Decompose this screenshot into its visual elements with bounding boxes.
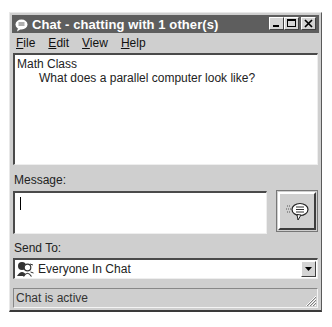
send-to-selected: Everyone In Chat [38, 262, 131, 276]
minimize-button[interactable] [269, 17, 284, 30]
menu-edit[interactable]: Edit [46, 35, 69, 51]
menu-file[interactable]: File [14, 35, 35, 51]
send-speech-bubble-icon [286, 202, 310, 222]
chat-bubble-icon [15, 18, 28, 31]
maximize-icon [285, 18, 298, 29]
chat-window: Chat - chatting with 1 other(s) File [9, 12, 322, 312]
group-people-icon [16, 261, 34, 277]
send-to-label: Send To: [14, 241, 61, 255]
status-text: Chat is active [16, 291, 88, 305]
chat-message: What does a parallel computer look like? [17, 71, 315, 85]
menu-view[interactable]: View [80, 35, 108, 51]
menu-help[interactable]: Help [119, 35, 146, 51]
send-to-dropdown[interactable]: Everyone In Chat [13, 258, 318, 279]
menu-bar: File Edit View Help [14, 35, 157, 51]
status-bar: Chat is active [13, 288, 318, 308]
close-button[interactable] [301, 17, 316, 30]
maximize-button[interactable] [284, 17, 299, 30]
text-caret [20, 197, 21, 210]
resize-grip-icon[interactable] [305, 295, 317, 307]
chat-room-name: Math Class [17, 57, 315, 71]
window-controls [269, 17, 316, 30]
dropdown-arrow-button[interactable] [301, 261, 316, 277]
send-button[interactable] [278, 192, 316, 230]
message-label: Message: [14, 173, 66, 187]
chat-log[interactable]: Math Class What does a parallel computer… [13, 53, 318, 165]
close-icon [302, 18, 315, 29]
minimize-icon [270, 18, 283, 29]
message-input[interactable] [13, 191, 267, 234]
title-bar[interactable]: Chat - chatting with 1 other(s) [12, 15, 319, 33]
chevron-down-icon [305, 267, 313, 272]
window-title: Chat - chatting with 1 other(s) [32, 17, 219, 32]
